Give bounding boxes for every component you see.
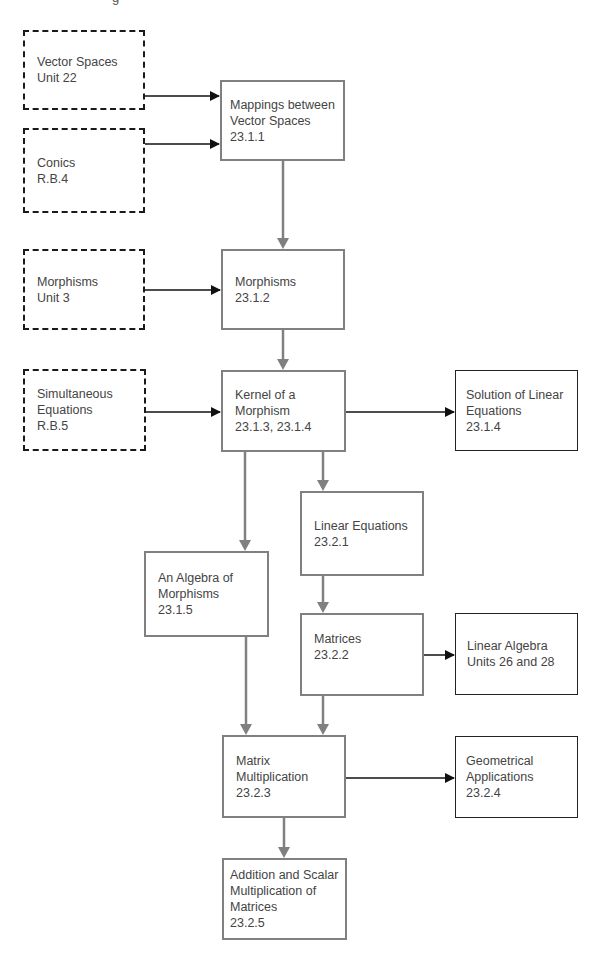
node-geometrical-applications: Geometrical Applications 23.2.4 [455, 736, 578, 818]
node-simultaneous-equations: Simultaneous Equations R.B.5 [23, 369, 146, 451]
node-solution-of-linear-equations: Solution of Linear Equations 23.1.4 [455, 370, 578, 451]
node-kernel-of-a-morphism: Kernel of a Morphism 23.1.3, 23.1.4 [221, 370, 346, 452]
node-conics: Conics R.B.4 [23, 128, 145, 213]
node-matrices: Matrices 23.2.2 [300, 613, 424, 696]
node-morphisms: Morphisms 23.1.2 [221, 249, 345, 330]
node-addition-and-scalar-multiplication: Addition and Scalar Multiplication of Ma… [222, 858, 347, 940]
node-mappings-between-vector-spaces: Mappings between Vector Spaces 23.1.1 [220, 80, 345, 161]
node-matrix-multiplication: Matrix Multiplication 23.2.3 [222, 735, 346, 818]
node-vector-spaces: Vector Spaces Unit 22 [23, 30, 145, 110]
node-linear-algebra-units: Linear Algebra Units 26 and 28 [455, 613, 578, 695]
node-linear-equations: Linear Equations 23.2.1 [300, 491, 424, 576]
node-algebra-of-morphisms: An Algebra of Morphisms 23.1.5 [144, 551, 269, 637]
node-morphisms-unit3: Morphisms Unit 3 [23, 249, 145, 330]
